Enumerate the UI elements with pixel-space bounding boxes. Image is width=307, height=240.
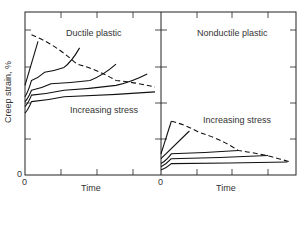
nonductile-panel-title: Nonductile plastic	[197, 28, 268, 38]
creep-curve	[161, 155, 268, 166]
x-origin-label-right: 0	[158, 177, 163, 187]
creep-curve	[161, 162, 287, 170]
creep-curve	[25, 74, 147, 107]
nonductile-annotation: Increasing stress	[203, 115, 271, 125]
ductile-annotation: Increasing stress	[70, 105, 138, 115]
creep-curve	[161, 131, 189, 159]
creep-curve	[161, 121, 171, 154]
x-axis-label-left: Time	[81, 183, 101, 193]
y-axis-label: Creep strain, %	[3, 63, 13, 123]
x-origin-label-left: 0	[22, 177, 27, 187]
x-axis-label-right: Time	[216, 183, 236, 193]
ductile-panel-title: Ductile plastic	[66, 28, 122, 38]
rupture-envelope-curve	[171, 121, 290, 162]
